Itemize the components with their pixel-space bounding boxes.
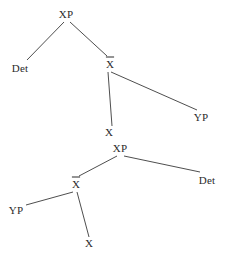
tree-edge-u-xp-to-u-det bbox=[27, 22, 64, 60]
tree-edge-u-xbar-to-u-yp bbox=[111, 72, 197, 110]
tree-diagram-canvas: XPDetXXYPXPXDetYPX bbox=[0, 0, 227, 258]
tree-edge-l-xbar-to-l-yp bbox=[26, 192, 73, 205]
tree-edge-u-xp-to-u-xbar bbox=[70, 22, 107, 56]
tree-edge-l-xp-to-l-det bbox=[124, 156, 200, 172]
tree-node-u-yp: YP bbox=[194, 112, 208, 123]
tree-edges-layer bbox=[0, 0, 227, 258]
tree-node-u-xp: XP bbox=[59, 9, 73, 20]
tree-edge-u-xbar-to-u-x bbox=[108, 72, 112, 126]
tree-node-u-x: X bbox=[105, 127, 113, 138]
tree-node-l-yp: YP bbox=[9, 205, 23, 216]
tree-node-u-det: Det bbox=[12, 63, 28, 74]
tree-node-l-xbar: X bbox=[72, 179, 80, 190]
tree-node-u-xbar: X bbox=[106, 59, 114, 70]
tree-edge-l-xbar-to-l-x bbox=[77, 192, 89, 237]
tree-node-l-det: Det bbox=[199, 175, 215, 186]
tree-node-l-x: X bbox=[85, 238, 93, 249]
tree-edge-l-xp-to-l-xbar bbox=[79, 156, 117, 176]
tree-node-l-xp: XP bbox=[113, 143, 127, 154]
